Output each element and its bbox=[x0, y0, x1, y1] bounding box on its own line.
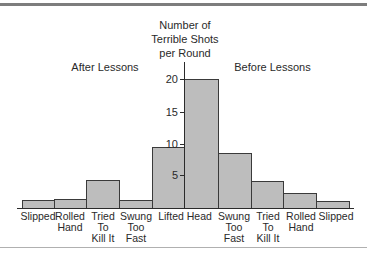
category-label-after-tried-to-kill-it: Tried To Kill It bbox=[86, 211, 120, 244]
x-axis bbox=[17, 208, 354, 209]
category-label-before-tried-to-kill-it: Tried To Kill It bbox=[251, 211, 285, 244]
category-label-line: Fast bbox=[217, 233, 251, 244]
bottom-rule bbox=[0, 247, 367, 248]
category-label-line: Slipped bbox=[314, 211, 358, 222]
y-axis bbox=[184, 62, 185, 208]
category-label-line: Kill It bbox=[86, 233, 120, 244]
bar-before-swung-too-fast bbox=[218, 153, 252, 209]
after-lessons-label: After Lessons bbox=[60, 61, 150, 74]
category-label-after-rolled-hand: Rolled Hand bbox=[52, 211, 88, 233]
bar-after-tried-to-kill-it bbox=[86, 180, 120, 209]
bar-before-tried-to-kill-it bbox=[251, 181, 284, 209]
y-tick-label-15: 15 bbox=[158, 106, 178, 118]
category-label-line: Hand bbox=[283, 222, 319, 233]
y-tick-label-5: 5 bbox=[158, 169, 178, 181]
category-label-line: Fast bbox=[119, 233, 153, 244]
category-label-line: Lifted Head bbox=[155, 211, 215, 222]
category-label-lifted-head: Lifted Head bbox=[155, 211, 215, 222]
y-tick-label-10: 10 bbox=[158, 138, 178, 150]
bar-before-lifted-head bbox=[184, 79, 219, 209]
category-label-before-swung-too-fast: Swung Too Fast bbox=[217, 211, 251, 244]
y-tick-label-20: 20 bbox=[158, 73, 178, 85]
y-axis-title-line-1: Number of bbox=[130, 19, 240, 32]
y-axis-title-line-2: Terrible Shots bbox=[130, 33, 240, 46]
category-label-line: Hand bbox=[52, 222, 88, 233]
bar-before-rolled-hand bbox=[283, 193, 317, 209]
category-label-line: Kill It bbox=[251, 233, 285, 244]
category-label-before-slipped: Slipped bbox=[314, 211, 358, 222]
category-label-after-swung-too-fast: Swung Too Fast bbox=[119, 211, 153, 244]
y-axis-title-line-3: per Round bbox=[130, 47, 240, 60]
y-tick-15 bbox=[180, 112, 185, 113]
top-rule bbox=[0, 3, 367, 6]
y-tick-10 bbox=[180, 144, 185, 145]
before-lessons-label: Before Lessons bbox=[225, 61, 320, 74]
y-tick-5 bbox=[180, 175, 185, 176]
y-tick-20 bbox=[180, 79, 185, 80]
